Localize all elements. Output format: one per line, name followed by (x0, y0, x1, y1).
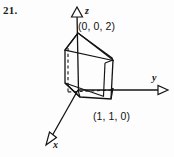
apex-coordinate-label: (0, 0, 2) (78, 20, 115, 32)
x-axis-label: x (53, 139, 58, 150)
x-axis-line (52, 90, 78, 136)
solid-right-face-top (105, 60, 113, 63)
solid-right-edge-inner (104, 63, 106, 96)
z-axis-arrowhead (72, 7, 83, 17)
solid-top-face (65, 33, 113, 61)
figure-container: 21. z y x (0, (0, 0, 174, 157)
z-axis-label: z (85, 5, 89, 16)
base-coordinate-label: (1, 1, 0) (93, 110, 130, 122)
solid-apex-ridge (78, 33, 113, 60)
y-axis-arrowhead (158, 86, 168, 95)
y-axis-label: y (152, 72, 156, 83)
